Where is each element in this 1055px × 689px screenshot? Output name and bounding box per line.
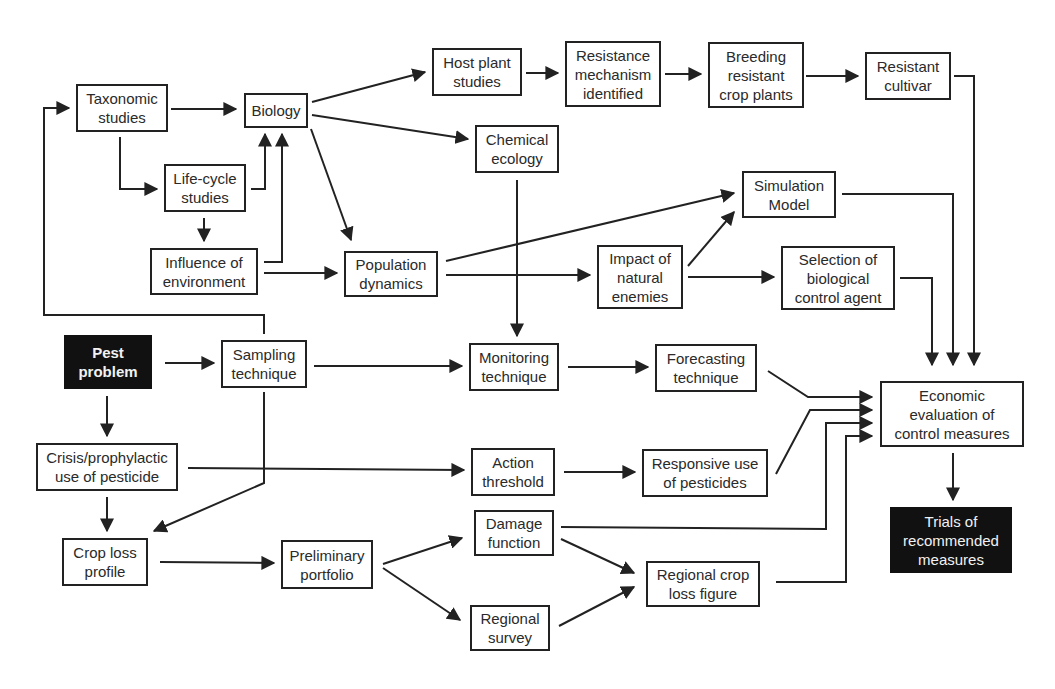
edge-damage-to-regcrop [561, 539, 634, 573]
node-label: Host plant studies [443, 53, 511, 91]
node-label: Taxonomic studies [86, 89, 158, 127]
flow-diagram: Taxonomic studiesBiologyLife-cycle studi… [0, 0, 1055, 689]
node-regcrop: Regional crop loss figure [646, 561, 760, 607]
edge-croploss-to-preliminary [160, 562, 274, 563]
node-action: Action threshold [471, 448, 555, 496]
edge-cultivar-to-economic [954, 76, 974, 365]
node-label: Crop loss profile [73, 543, 136, 581]
node-label: Selection of biological control agent [795, 250, 882, 307]
edge-sampling-to-taxonomic [44, 108, 264, 334]
node-label: Resistance mechanism identified [575, 46, 652, 103]
node-population: Population dynamics [344, 251, 438, 297]
node-environment: Influence of environment [150, 248, 258, 295]
node-label: Preliminary portfolio [289, 546, 364, 584]
node-label: Damage function [486, 514, 543, 552]
edge-biology-to-population [311, 129, 351, 240]
node-label: Regional crop loss figure [657, 565, 750, 603]
edge-biology-to-hostplant [312, 72, 425, 102]
edge-preliminary-to-damage [383, 538, 462, 564]
edge-biocontrol-to-economic [900, 278, 932, 365]
node-label: Forecasting technique [667, 349, 745, 387]
node-label: Sampling technique [231, 345, 296, 383]
node-label: Trials of recommended measures [903, 512, 999, 569]
node-simulation: Simulation Model [742, 171, 836, 218]
node-label: Influence of environment [163, 253, 246, 291]
edge-environment-to-biology [264, 134, 282, 262]
edge-forecasting-to-economic [768, 371, 872, 397]
edge-survey-to-regcrop [559, 587, 634, 626]
node-label: Breeding resistant crop plants [719, 47, 792, 104]
edge-crisis-to-action [188, 468, 464, 470]
edge-preliminary-to-survey [383, 568, 460, 620]
node-label: Life-cycle studies [173, 169, 236, 207]
node-monitoring: Monitoring technique [469, 343, 559, 391]
node-biology: Biology [244, 93, 308, 128]
node-chemical: Chemical ecology [475, 125, 559, 173]
node-label: Chemical ecology [486, 130, 549, 168]
node-preliminary: Preliminary portfolio [281, 540, 373, 589]
node-breeding: Breeding resistant crop plants [708, 42, 804, 108]
node-economic: Economic evaluation of control measures [880, 381, 1024, 447]
node-label: Responsive use of pesticides [652, 454, 759, 492]
node-damage: Damage function [474, 510, 554, 556]
node-label: Crisis/prophylactic use of pesticide [46, 448, 168, 486]
node-label: Impact of natural enemies [609, 249, 671, 306]
node-label: Biology [251, 101, 300, 120]
node-responsive: Responsive use of pesticides [642, 449, 768, 497]
node-trials: Trials of recommended measures [890, 507, 1012, 573]
node-label: Pest problem [78, 343, 137, 381]
node-label: Population dynamics [356, 255, 427, 293]
edge-regcrop-to-economic [776, 436, 872, 582]
node-hostplant: Host plant studies [432, 48, 522, 96]
node-label: Resistant cultivar [877, 57, 940, 95]
node-label: Action threshold [482, 453, 544, 491]
edge-natural-to-simulation [688, 212, 734, 266]
edge-biology-to-chemical [312, 115, 468, 139]
node-label: Regional survey [480, 609, 539, 647]
node-cultivar: Resistant cultivar [865, 52, 951, 100]
edge-population-to-simulation [446, 193, 734, 261]
edge-responsive-to-economic [776, 410, 872, 474]
node-label: Simulation Model [754, 176, 824, 214]
node-resistance: Resistance mechanism identified [565, 41, 661, 107]
node-biocontrol: Selection of biological control agent [781, 246, 895, 310]
node-taxonomic: Taxonomic studies [76, 84, 168, 132]
edge-taxonomic-to-lifecycle [120, 137, 157, 189]
node-natural: Impact of natural enemies [597, 245, 683, 309]
node-label: Economic evaluation of control measures [894, 386, 1009, 443]
node-croploss: Crop loss profile [62, 538, 148, 586]
node-label: Monitoring technique [479, 348, 549, 386]
node-survey: Regional survey [470, 605, 550, 651]
node-forecasting: Forecasting technique [655, 344, 757, 392]
edge-lifecycle-to-biology [251, 134, 265, 189]
node-sampling: Sampling technique [221, 340, 307, 388]
node-pest: Pest problem [64, 335, 152, 389]
node-crisis: Crisis/prophylactic use of pesticide [36, 443, 178, 491]
node-lifecycle: Life-cycle studies [164, 164, 246, 212]
